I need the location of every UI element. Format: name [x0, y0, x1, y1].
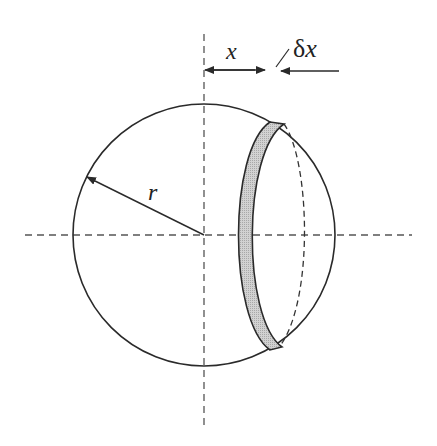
thickness-leader	[276, 49, 289, 67]
radius-label: r	[148, 179, 158, 205]
delta-symbol: δ	[293, 34, 305, 63]
thickness-label: δx	[293, 34, 317, 63]
distance-label: x	[225, 38, 237, 64]
radius-arrow	[87, 177, 204, 235]
slice-band	[239, 122, 285, 350]
thickness-var: x	[304, 34, 317, 63]
sphere-diagram: r x δx	[0, 0, 437, 446]
